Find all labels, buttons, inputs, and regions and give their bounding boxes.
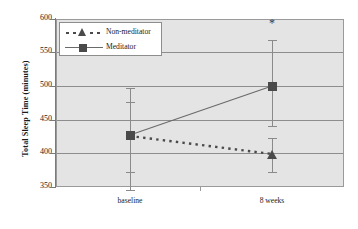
legend-entry-nonmeditator: Non-meditator [60, 25, 161, 40]
nonmeditator-line [130, 136, 272, 154]
legend-label-nonmeditator: Non-meditator [106, 27, 151, 36]
errorbar-nonmeditator-8wk-cap-bottom [268, 172, 277, 173]
x-tick-label-8weeks: 8 weeks [227, 196, 317, 205]
chart-figure: Total Sleep Time (minutes) 600 550 500 4… [0, 0, 358, 229]
legend-triangle-icon [78, 28, 86, 36]
errorbar-meditator-8wk-cap-bottom [268, 126, 277, 127]
meditator-line [130, 86, 272, 135]
errorbar-baseline-cap-bottom [126, 190, 135, 191]
errorbar-baseline-cap-upper-inner [126, 102, 135, 103]
chart-legend: Non-meditator Meditator [59, 22, 162, 56]
errorbar-baseline-cap-top [126, 88, 135, 89]
legend-square-icon [79, 44, 87, 52]
legend-dash-4 [97, 32, 100, 34]
marker-meditator-8weeks [268, 82, 277, 91]
legend-label-meditator: Meditator [106, 42, 136, 51]
legend-dash-2 [73, 32, 76, 34]
significance-asterisk: * [269, 17, 275, 29]
legend-dash-1 [66, 32, 69, 34]
series-lines [0, 0, 358, 229]
legend-entry-meditator: Meditator [60, 40, 161, 55]
errorbar-baseline-cap-lower-inner [126, 172, 135, 173]
x-tick-label-baseline: baseline [85, 196, 175, 205]
legend-dash-3 [90, 32, 93, 34]
errorbar-nonmeditator-8wk-cap-top [268, 138, 277, 139]
marker-nonmeditator-8weeks [267, 150, 277, 159]
errorbar-meditator-8wk-cap-top [268, 40, 277, 41]
marker-meditator-baseline [126, 131, 135, 140]
